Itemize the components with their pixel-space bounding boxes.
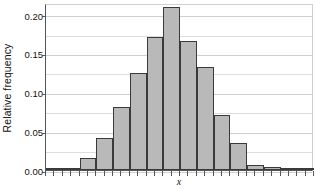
y-axis-tick-mark: [42, 55, 46, 56]
plot-area: [45, 4, 313, 171]
x-axis-tick-mark: [221, 171, 222, 176]
histogram-chart: Relative frequency 0.000.050.100.150.20 …: [0, 0, 316, 189]
x-axis-tick-mark: [238, 171, 239, 176]
x-axis-tick-mark: [280, 171, 281, 176]
x-axis-tick-mark: [146, 171, 147, 176]
histogram-bar: [46, 168, 63, 170]
x-axis-tick-mark: [137, 171, 138, 176]
histogram-bar: [197, 67, 214, 170]
x-axis-tick-mark: [313, 171, 314, 176]
histogram-bar: [80, 158, 97, 170]
y-axis-tick-label: 0.10: [25, 88, 44, 99]
histogram-bar: [113, 107, 130, 170]
x-axis-tick-mark: [263, 171, 264, 176]
histogram-bar: [147, 37, 164, 170]
bars-layer: [46, 5, 312, 170]
x-axis-tick-mark: [70, 171, 71, 176]
y-axis-tick-mark: [42, 133, 46, 134]
x-axis-tick-mark: [171, 171, 172, 176]
histogram-bar: [63, 168, 80, 170]
x-axis-tick-mark: [196, 171, 197, 176]
x-axis-tick-mark: [187, 171, 188, 176]
x-axis-tick-mark: [112, 171, 113, 176]
histogram-bar: [230, 143, 247, 170]
histogram-bar: [214, 115, 231, 170]
y-axis-tick-label: 0.15: [25, 49, 44, 60]
y-axis-tick-label: 0.05: [25, 127, 44, 138]
histogram-bar: [247, 165, 264, 170]
y-axis-tick-label: 0.00: [25, 166, 44, 177]
x-axis-tick-mark: [229, 171, 230, 176]
x-axis-tick-mark: [162, 171, 163, 176]
x-axis-tick-mark: [95, 171, 96, 176]
y-axis-tick-labels: 0.000.050.100.150.20: [13, 0, 43, 189]
x-axis-tick-mark: [254, 171, 255, 176]
x-axis-tick-mark: [120, 171, 121, 176]
y-axis-title-label: Relative frequency: [1, 43, 13, 132]
x-axis-tick-mark: [154, 171, 155, 176]
x-axis-tick-mark: [129, 171, 130, 176]
histogram-bar: [180, 41, 197, 170]
x-axis-tick-mark: [271, 171, 272, 176]
x-axis-tick-mark: [62, 171, 63, 176]
y-axis-tick-mark: [42, 16, 46, 17]
histogram-bar: [130, 73, 147, 170]
histogram-bar: [297, 168, 314, 170]
histogram-bar: [96, 138, 113, 170]
histogram-bar: [264, 167, 281, 170]
x-axis-tick-mark: [87, 171, 88, 176]
x-axis-tick-mark: [204, 171, 205, 176]
x-axis-tick-mark: [104, 171, 105, 176]
y-axis-tick-label: 0.20: [25, 10, 44, 21]
histogram-bar: [281, 168, 298, 170]
x-axis-tick-mark: [53, 171, 54, 176]
x-axis-tick-mark: [296, 171, 297, 176]
x-axis-tick-mark: [79, 171, 80, 176]
x-axis-tick-mark: [213, 171, 214, 176]
x-axis-tick-mark: [288, 171, 289, 176]
x-axis-title: x: [45, 176, 313, 187]
y-axis-tick-mark: [42, 94, 46, 95]
x-axis-tick-mark: [45, 171, 46, 176]
x-axis-tick-mark: [305, 171, 306, 176]
histogram-bar: [163, 7, 180, 170]
y-axis-title: Relative frequency: [0, 0, 14, 175]
x-axis-tick-mark: [179, 171, 180, 176]
x-axis-tick-mark: [246, 171, 247, 176]
